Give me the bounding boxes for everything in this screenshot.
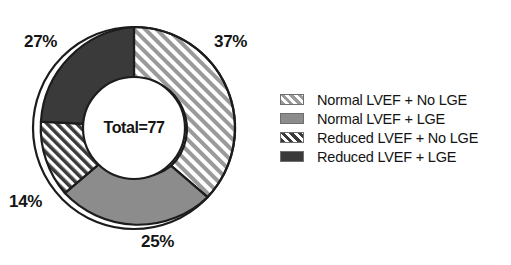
legend-swatch-hatch-light-icon xyxy=(280,94,304,105)
donut-chart-figure: Total=77 37% 25% 14% 27% Normal LVEF + N… xyxy=(0,0,511,265)
data-label-normal-lvef-no-lge: 37% xyxy=(214,32,247,52)
legend-item-normal-lvef-lge: Normal LVEF + LGE xyxy=(280,109,511,128)
donut-center-total-label: Total=77 xyxy=(84,119,184,137)
data-label-normal-lvef-lge: 25% xyxy=(141,232,174,252)
data-label-reduced-lvef-no-lge: 14% xyxy=(9,192,42,212)
chart-legend: Normal LVEF + No LGE Normal LVEF + LGE R… xyxy=(280,90,511,166)
legend-swatch-hatch-dark-icon xyxy=(280,132,304,143)
legend-label-normal-lvef-no-lge: Normal LVEF + No LGE xyxy=(317,92,467,108)
legend-label-reduced-lvef-no-lge: Reduced LVEF + No LGE xyxy=(317,130,478,146)
legend-swatch-solid-dark-icon xyxy=(280,151,304,162)
legend-item-normal-lvef-no-lge: Normal LVEF + No LGE xyxy=(280,90,511,109)
chart-plot-area: Total=77 37% 25% 14% 27% xyxy=(0,0,270,265)
legend-item-reduced-lvef-lge: Reduced LVEF + LGE xyxy=(280,147,511,166)
data-label-reduced-lvef-lge: 27% xyxy=(24,32,57,52)
legend-swatch-solid-medium-icon xyxy=(280,113,304,124)
legend-label-reduced-lvef-lge: Reduced LVEF + LGE xyxy=(317,149,456,165)
legend-label-normal-lvef-lge: Normal LVEF + LGE xyxy=(317,111,445,127)
legend-item-reduced-lvef-no-lge: Reduced LVEF + No LGE xyxy=(280,128,511,147)
